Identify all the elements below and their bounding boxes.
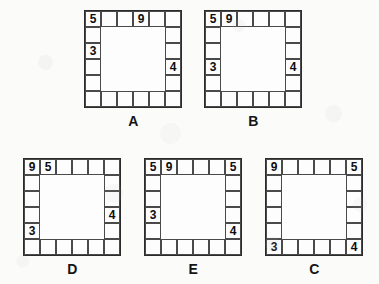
cell-a-r4c3 [117,59,133,75]
cell-b-r3c5 [269,43,285,59]
cell-c-r4c2 [282,207,298,223]
figure-e: 59534E [144,158,243,277]
cell-a-r1c5 [149,11,165,27]
cell-d-r1c6 [104,159,120,175]
cell-c-r3c4 [314,191,330,207]
cell-a-r5c5 [149,75,165,91]
cell-b-r6c2 [221,91,237,107]
cell-c-r3c3 [298,191,314,207]
cell-d-r2c6 [104,175,120,191]
cell-d-r6c3 [56,239,72,255]
cell-a-r5c2 [101,75,117,91]
cell-b-r2c4 [253,27,269,43]
cell-a-r1c4-filled: 9 [133,11,149,27]
cell-d-r5c3 [56,223,72,239]
cell-b-r5c1 [205,75,221,91]
figure-b: 5934B [204,10,303,129]
cell-e-r2c5 [209,175,225,191]
cell-a-r2c6 [165,27,181,43]
cell-d-r2c5 [88,175,104,191]
cell-d-r3c6 [104,191,120,207]
cell-e-r1c3 [177,159,193,175]
cell-c-r1c2 [282,159,298,175]
cell-a-r5c6 [165,75,181,91]
cell-b-r2c3 [237,27,253,43]
cell-e-r4c4 [193,207,209,223]
cell-c-r2c3 [298,175,314,191]
cell-b-r2c2 [221,27,237,43]
cell-c-r5c3 [298,223,314,239]
cell-c-r3c2 [282,191,298,207]
cell-d-r1c2-filled: 5 [40,159,56,175]
cell-b-r6c4 [253,91,269,107]
cell-e-r2c4 [193,175,209,191]
figure-label-a: A [84,113,183,129]
cell-c-r4c6 [346,207,362,223]
cell-e-r5c1 [145,223,161,239]
cell-a-r3c3 [117,43,133,59]
cell-d-r4c2 [40,207,56,223]
cell-d-r4c4 [72,207,88,223]
figure-label-e: E [144,261,243,277]
cell-d-r6c6 [104,239,120,255]
cell-c-r1c4 [314,159,330,175]
cell-c-r2c5 [330,175,346,191]
cell-a-r2c5 [149,27,165,43]
cell-e-r4c2 [161,207,177,223]
figure-label-c: C [265,261,364,277]
cell-c-r6c6-filled: 4 [346,239,362,255]
cell-c-r1c3 [298,159,314,175]
cell-a-r1c6 [165,11,181,27]
cell-d-r3c4 [72,191,88,207]
cell-a-r6c5 [149,91,165,107]
cell-d-r6c1 [24,239,40,255]
cell-a-r6c1 [85,91,101,107]
cell-a-r4c1 [85,59,101,75]
cell-c-r3c6 [346,191,362,207]
figure-label-b: B [204,113,303,129]
cell-b-r1c1-filled: 5 [205,11,221,27]
cell-c-r6c2 [282,239,298,255]
cell-b-r1c5 [269,11,285,27]
cell-b-r1c3 [237,11,253,27]
cell-c-r4c4 [314,207,330,223]
cell-e-r4c3 [177,207,193,223]
cell-b-r3c1 [205,43,221,59]
cell-d-r5c6 [104,223,120,239]
cell-e-r6c1 [145,239,161,255]
cell-c-r2c1 [266,175,282,191]
cell-d-r3c1 [24,191,40,207]
cell-c-r1c6-filled: 5 [346,159,362,175]
cell-d-r6c2 [40,239,56,255]
cell-c-r4c5 [330,207,346,223]
cell-d-r3c3 [56,191,72,207]
cell-c-r5c5 [330,223,346,239]
cell-d-r1c5 [88,159,104,175]
cell-b-r5c2 [221,75,237,91]
cell-d-r1c4 [72,159,88,175]
cell-b-r6c6 [285,91,301,107]
cell-d-r1c3 [56,159,72,175]
cell-c-r5c4 [314,223,330,239]
cell-e-r4c6 [225,207,241,223]
cell-e-r4c1-filled: 3 [145,207,161,223]
cell-a-r6c2 [101,91,117,107]
cell-c-r5c6 [346,223,362,239]
cell-b-r2c6 [285,27,301,43]
cell-e-r3c2 [161,191,177,207]
cell-a-r6c3 [117,91,133,107]
cell-d-r5c4 [72,223,88,239]
cell-e-r2c1 [145,175,161,191]
cell-b-r4c1-filled: 3 [205,59,221,75]
cell-b-r6c3 [237,91,253,107]
cell-a-r2c4 [133,27,149,43]
cell-b-r5c3 [237,75,253,91]
cell-d-r3c5 [88,191,104,207]
cell-a-r4c6-filled: 4 [165,59,181,75]
cell-e-r2c3 [177,175,193,191]
cell-c-r3c5 [330,191,346,207]
cell-b-r4c3 [237,59,253,75]
cell-d-r5c2 [40,223,56,239]
cell-a-r4c4 [133,59,149,75]
figure-c: 9534C [265,158,364,277]
